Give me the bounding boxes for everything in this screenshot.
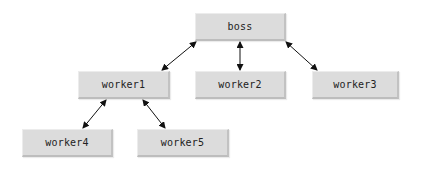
edge-boss-worker3: [286, 42, 317, 70]
edge-worker1-worker5: [143, 100, 165, 128]
node-worker3-label: worker3: [333, 79, 377, 90]
node-worker4: worker4: [22, 129, 113, 157]
node-boss-label: boss: [228, 21, 253, 32]
node-worker1: worker1: [78, 71, 170, 99]
hierarchy-diagram: boss worker1 worker2 worker3 worker4 wor…: [0, 0, 422, 171]
edge-worker1-worker4: [83, 100, 106, 128]
node-boss: boss: [195, 13, 286, 41]
node-worker5: worker5: [137, 129, 229, 157]
node-worker3: worker3: [312, 71, 399, 99]
edge-boss-worker1: [162, 42, 196, 70]
node-worker2-label: worker2: [218, 79, 262, 90]
node-worker5-label: worker5: [161, 137, 205, 148]
node-worker4-label: worker4: [45, 137, 89, 148]
node-worker2: worker2: [195, 71, 286, 99]
node-worker1-label: worker1: [102, 79, 146, 90]
